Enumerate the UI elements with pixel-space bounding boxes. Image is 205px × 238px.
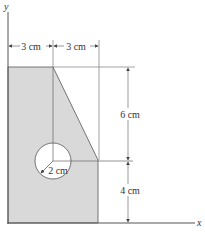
x-axis-label: x <box>196 217 202 228</box>
dim-label-hole-radius: 2 cm <box>48 165 68 176</box>
dim-label-right-width: 3 cm <box>66 41 86 52</box>
dim-label-left-width: 3 cm <box>21 41 41 52</box>
diagram-canvas: y x 3 cm 3 cm 6 cm 4 cm 2 cm <box>0 0 205 238</box>
dim-label-lower-height: 4 cm <box>120 185 140 196</box>
dim-label-upper-height: 6 cm <box>120 109 140 120</box>
y-axis-label: y <box>3 1 9 12</box>
